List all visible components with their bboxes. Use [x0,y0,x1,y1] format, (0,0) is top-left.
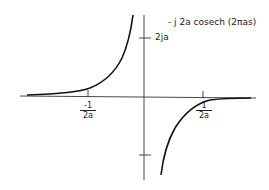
x-axis [20,96,256,98]
x-tick-label-neg-den: 2a [80,111,96,120]
x-tick-label-pos-num: 1 [196,101,212,111]
x-tick-label-neg: -1 2a [80,101,96,120]
plot-canvas [0,0,269,190]
x-tick-label-pos-den: 2a [196,111,212,120]
chart-title: - j 2a cosech (2πas) [168,17,256,27]
x-tick-label-pos: 1 2a [196,101,212,120]
x-tick-label-neg-num: -1 [80,101,96,111]
curve-negative-branch [27,15,133,95]
y-tick-label-pos: 2ja [155,32,169,42]
